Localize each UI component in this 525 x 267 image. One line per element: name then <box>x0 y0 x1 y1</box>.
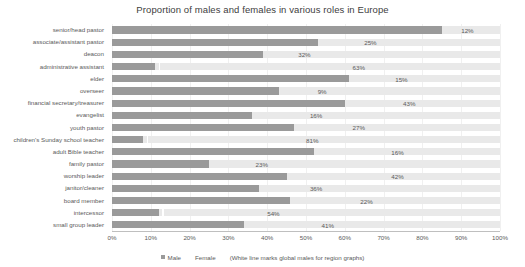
bar-row: 16% <box>112 148 500 155</box>
bar-segment-male <box>112 185 259 192</box>
category-label: janitor/cleaner <box>65 185 104 191</box>
bar-value-label: 36% <box>310 185 322 192</box>
bar-value-label: 15% <box>395 75 407 82</box>
x-tick-label: 20% <box>183 234 195 241</box>
bar-value-label: 81% <box>306 136 318 143</box>
x-tick-label: 40% <box>261 234 273 241</box>
bar-row: 63% <box>112 63 500 70</box>
bar-row: 22% <box>112 197 500 204</box>
bar-segment-female <box>112 209 500 216</box>
bar-segment-male <box>112 100 345 107</box>
legend-label-female: Female <box>195 254 216 261</box>
bar-row: 43% <box>112 100 500 107</box>
chart-container: Proportion of males and females in vario… <box>0 0 525 267</box>
bar-segment-male <box>112 26 442 33</box>
bar-value-label: 25% <box>364 39 376 46</box>
bar-rows: 12%25%32%63%15%9%43%16%27%81%16%23%42%36… <box>112 24 500 231</box>
x-tick-label: 30% <box>222 234 234 241</box>
category-axis-labels: senior/head pastorassociate/assistant pa… <box>0 24 108 231</box>
bar-row: 12% <box>112 26 500 33</box>
x-tick-label: 10% <box>145 234 157 241</box>
gridline <box>500 24 501 231</box>
legend-note: (White line marks global males for regio… <box>230 254 365 261</box>
global-male-marker <box>147 136 149 143</box>
bar-row: 25% <box>112 39 500 46</box>
bar-row: 54% <box>112 209 500 216</box>
category-label: administrative assistant <box>40 64 104 70</box>
bar-row: 41% <box>112 221 500 228</box>
bar-segment-male <box>112 51 263 58</box>
category-label: board member <box>64 198 104 204</box>
category-label: evangelist <box>76 112 104 118</box>
bar-segment-male <box>112 87 279 94</box>
bar-row: 32% <box>112 51 500 58</box>
x-axis-baseline <box>112 231 500 232</box>
legend-item-female: Female <box>195 254 216 261</box>
category-label: associate/assistant pastor <box>33 39 104 45</box>
category-label: youth pastor <box>70 125 104 131</box>
global-male-marker <box>162 209 164 216</box>
bar-value-label: 43% <box>403 100 415 107</box>
bar-value-label: 16% <box>310 112 322 119</box>
category-label: senior/head pastor <box>53 27 104 33</box>
bar-segment-male <box>112 75 349 82</box>
bar-segment-male <box>112 63 155 70</box>
category-label: worship leader <box>64 173 104 179</box>
bar-segment-male <box>112 148 314 155</box>
bar-row: 16% <box>112 112 500 119</box>
bar-value-label: 54% <box>267 209 279 216</box>
global-male-marker <box>159 63 161 70</box>
legend-swatch-male-icon <box>161 255 165 259</box>
category-label: small group leader <box>53 222 104 228</box>
legend-item-male: Male <box>161 254 181 261</box>
x-tick-label: 70% <box>377 234 389 241</box>
chart-title: Proportion of males and females in vario… <box>0 4 525 15</box>
x-tick-label: 90% <box>455 234 467 241</box>
bar-segment-male <box>112 39 318 46</box>
category-label: intercessor <box>74 210 104 216</box>
bar-value-label: 27% <box>353 124 365 131</box>
bar-segment-male <box>112 197 290 204</box>
plot-area: 12%25%32%63%15%9%43%16%27%81%16%23%42%36… <box>112 24 500 231</box>
bar-segment-male <box>112 173 287 180</box>
bar-value-label: 22% <box>360 197 372 204</box>
bar-row: 27% <box>112 124 500 131</box>
x-tick-label: 0% <box>108 234 117 241</box>
bar-segment-male <box>112 136 143 143</box>
x-tick-label: 100% <box>492 234 508 241</box>
x-tick-label: 50% <box>300 234 312 241</box>
bar-value-label: 9% <box>318 87 327 94</box>
bar-row: 15% <box>112 75 500 82</box>
bar-row: 9% <box>112 87 500 94</box>
category-label: deacon <box>84 51 104 57</box>
bar-segment-female <box>112 63 500 70</box>
x-tick-label: 60% <box>339 234 351 241</box>
bar-value-label: 42% <box>391 173 403 180</box>
bar-segment-male <box>112 221 244 228</box>
bar-segment-male <box>112 124 294 131</box>
bar-value-label: 23% <box>256 161 268 168</box>
bar-segment-male <box>112 112 252 119</box>
chart-legend: Male Female (White line marks global mal… <box>0 250 525 264</box>
bar-row: 23% <box>112 160 500 167</box>
bar-value-label: 12% <box>461 27 473 34</box>
bar-value-label: 16% <box>391 148 403 155</box>
category-label: elder <box>90 76 104 82</box>
bar-row: 42% <box>112 173 500 180</box>
bar-value-label: 32% <box>298 51 310 58</box>
category-label: financial secretary/treasurer <box>28 100 104 106</box>
bar-value-label: 41% <box>322 221 334 228</box>
category-label: adult Bible teacher <box>53 149 104 155</box>
category-label: overseer <box>80 88 104 94</box>
legend-label-male: Male <box>168 254 181 261</box>
x-tick-label: 80% <box>416 234 428 241</box>
bar-segment-male <box>112 160 209 167</box>
bar-row: 81% <box>112 136 500 143</box>
bar-segment-male <box>112 209 159 216</box>
bar-row: 36% <box>112 185 500 192</box>
x-axis-tick-labels: 0%10%20%30%40%50%60%70%80%90%100% <box>0 234 525 246</box>
bar-value-label: 63% <box>353 63 365 70</box>
category-label: children's Sunday school teacher <box>13 137 104 143</box>
category-label: family pastor <box>69 161 104 167</box>
